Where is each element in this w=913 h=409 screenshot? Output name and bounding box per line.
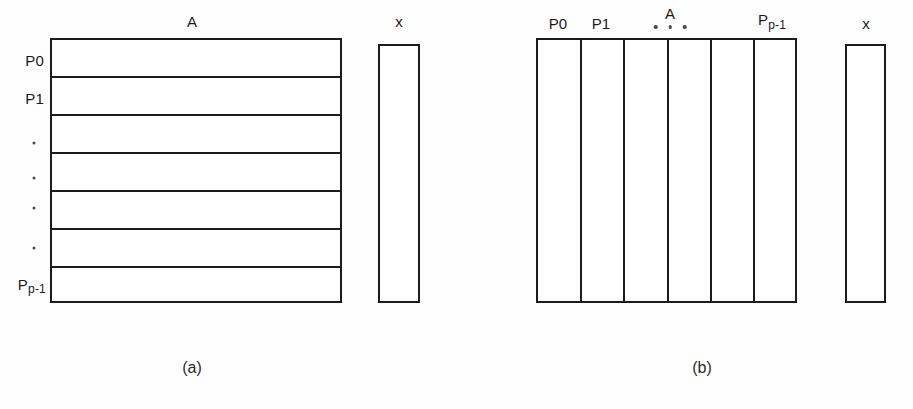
panel-b-col-label-p-last-base: P bbox=[758, 11, 768, 28]
panel-b-ellipsis bbox=[654, 25, 687, 29]
panel-b-vector-x bbox=[845, 44, 886, 303]
panel-b-col-label-p1: P1 bbox=[592, 16, 611, 31]
panel-b-col-divider bbox=[580, 38, 582, 303]
panel-b-col-label-p-last: Pp-1 bbox=[758, 12, 786, 31]
panel-b-ellipsis-dot bbox=[668, 25, 672, 29]
panel-b-col-label-p-last-sub: p-1 bbox=[768, 18, 786, 32]
panel-b-ellipsis-dot bbox=[654, 25, 658, 29]
panel-b-col-divider bbox=[667, 38, 669, 303]
figure-canvas: A x P0 P1 Pp-1 (a) P0 P1 A bbox=[0, 0, 913, 409]
panel-b-ellipsis-dot bbox=[683, 25, 687, 29]
panel-b-col-divider bbox=[623, 38, 625, 303]
panel-b-col-divider bbox=[710, 38, 712, 303]
panel-b: P0 P1 A Pp-1 x (b) bbox=[0, 0, 913, 409]
panel-b-col-divider bbox=[753, 38, 755, 303]
panel-b-caption: (b) bbox=[692, 360, 712, 376]
panel-b-matrix-label: A bbox=[665, 6, 675, 21]
panel-b-col-label-p0: P0 bbox=[549, 16, 568, 31]
panel-b-vector-label: x bbox=[862, 16, 870, 31]
